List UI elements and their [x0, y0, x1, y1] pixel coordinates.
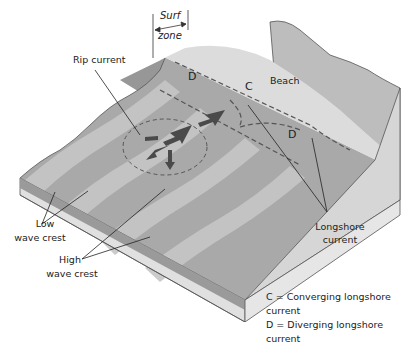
longshore-current-label-line2: current [310, 234, 370, 246]
legend-item-diverging: D = Diverging longshore current [266, 318, 417, 346]
surf-zone-label-line1: Surf [160, 10, 180, 21]
high-wave-crest-label-line2: wave crest [38, 268, 106, 280]
legend-item-converging: C = Converging longshore current [266, 290, 417, 318]
rip-current-label: Rip current [73, 54, 126, 66]
low-wave-crest-label-line1: Low [30, 218, 60, 230]
surf-zone-label-line2: zone [158, 30, 182, 41]
low-wave-crest-label-line2: wave crest [6, 232, 74, 244]
marker-c: C [245, 80, 253, 93]
marker-d-upper: D [188, 70, 196, 83]
marker-d-lower: D [288, 128, 296, 141]
legend: C = Converging longshore current D = Div… [266, 290, 417, 346]
high-wave-crest-label-line1: High [55, 254, 85, 266]
longshore-current-label-line1: Longshore [310, 221, 370, 233]
beach-label: Beach [270, 75, 299, 87]
